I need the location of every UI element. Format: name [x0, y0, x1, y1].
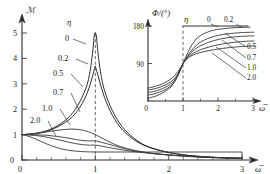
main-curve-label-0: 0 — [65, 34, 69, 43]
main-x-tick-1: 1 — [93, 165, 97, 174]
main-curve-label-0_5: 0.5 — [53, 69, 63, 78]
main-y-tick-5: 5 — [13, 29, 17, 38]
inset-y-tick-180: 180 — [133, 22, 144, 31]
inset-x-tick-2: 2 — [216, 104, 220, 113]
main-y-ticks — [22, 33, 27, 160]
inset-curve-label-2_0: 2.0 — [247, 73, 257, 82]
inset-plot: η 0 0.2 0.5 0.7 1.0 2.0 180 90 0 1 2 3 Φ… — [132, 6, 268, 113]
inset-y-axis-label: Φ/(°) — [152, 8, 170, 18]
main-curve-label-1_0: 1.0 — [42, 104, 52, 113]
inset-x-tick-1: 1 — [181, 104, 185, 113]
main-x-axis-label: ω̅ — [255, 164, 264, 174]
leader-eta-0 — [73, 39, 86, 44]
main-y-tick-0: 0 — [10, 156, 14, 165]
main-y-tick-3: 3 — [13, 80, 17, 89]
inset-x-tick-0: 0 — [144, 104, 148, 113]
main-curve-label-2_0: 2.0 — [30, 116, 40, 125]
main-y-tick-4: 4 — [13, 54, 17, 63]
inset-x-tick-3: 3 — [251, 104, 255, 113]
figure-container: η 0 0.2 0.5 0.7 1.0 2.0 0 1 2 3 4 5 0 1 … — [0, 0, 270, 174]
main-x-tick-3: 3 — [240, 165, 244, 174]
main-y-tick-2: 2 — [13, 105, 17, 114]
main-curve-label-0_7: 0.7 — [53, 88, 63, 97]
leader-eta-0_2 — [76, 59, 88, 64]
main-eta-symbol: η — [67, 17, 71, 27]
inset-curve-label-0_2: 0.2 — [224, 15, 234, 24]
inset-curve-label-0_5: 0.5 — [247, 42, 257, 51]
leader-eta-0_5 — [71, 74, 83, 87]
inset-eta-symbol: η — [184, 14, 188, 24]
inset-curve-label-1_0: 1.0 — [247, 63, 257, 72]
main-curve-label-0_2: 0.2 — [58, 54, 68, 63]
main-y-axis — [19, 14, 25, 160]
inset-y-tick-90: 90 — [137, 60, 145, 69]
main-y-tick-1: 1 — [13, 131, 17, 140]
main-x-tick-0: 0 — [18, 165, 22, 174]
inset-curve-label-0: 0 — [207, 15, 211, 24]
main-x-tick-2: 2 — [167, 165, 171, 174]
inset-curve-label-0_7: 0.7 — [247, 53, 257, 62]
main-y-axis-label: ℳ — [26, 5, 37, 15]
resonance-figure: η 0 0.2 0.5 0.7 1.0 2.0 0 1 2 3 4 5 0 1 … — [0, 0, 270, 174]
